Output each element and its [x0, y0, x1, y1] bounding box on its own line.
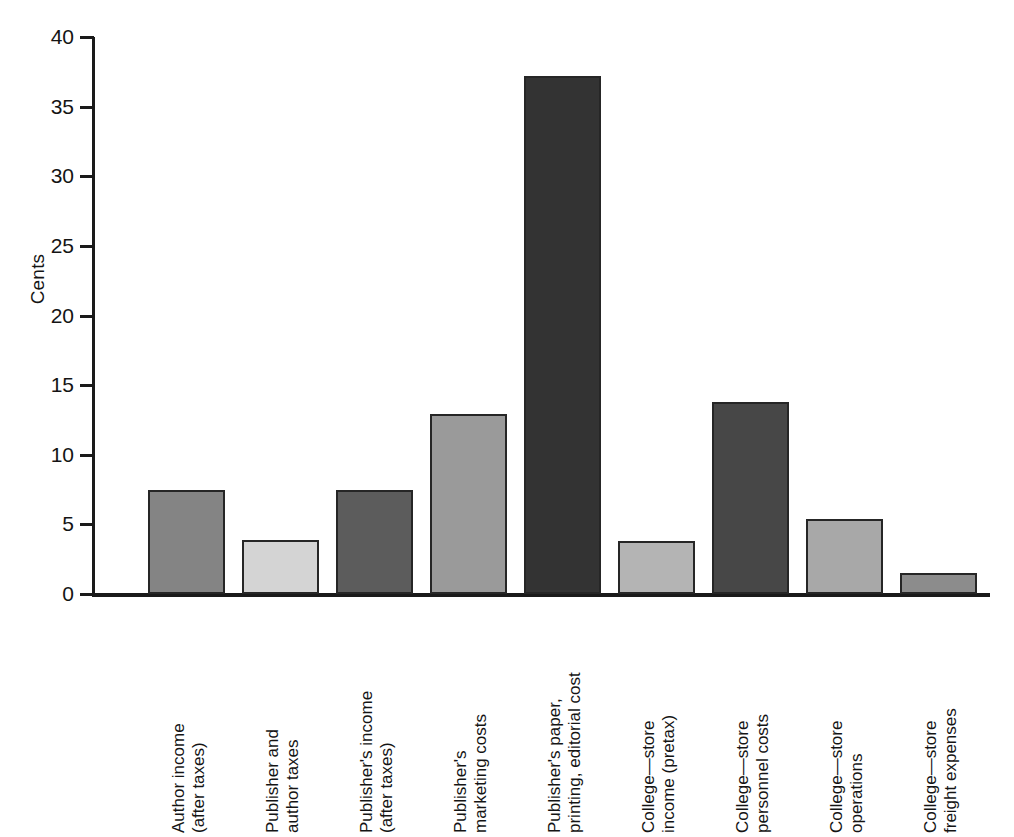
bar [148, 490, 225, 594]
bar [524, 76, 601, 594]
bar [900, 573, 977, 594]
bar [806, 519, 883, 594]
bar [242, 540, 319, 594]
bar [430, 414, 507, 594]
bars-container [0, 0, 1014, 837]
bar [336, 490, 413, 594]
bar [618, 541, 695, 594]
bar [712, 402, 789, 594]
bar-chart: Cents 4035302520151050 Author income(aft… [0, 0, 1014, 837]
